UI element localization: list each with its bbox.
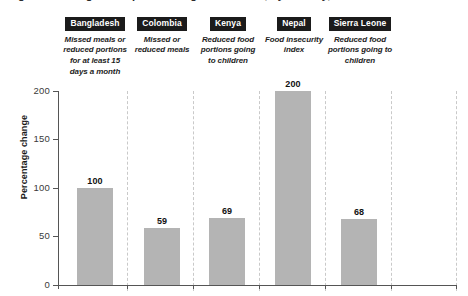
- bar-value-label: 69: [209, 206, 245, 216]
- category-separator: [259, 91, 260, 291]
- country-badge: Sierra Leone: [329, 17, 392, 31]
- country-badge: Bangladesh: [65, 17, 124, 31]
- category-separator: [456, 91, 457, 291]
- bar-value-label: 100: [77, 176, 113, 186]
- country-badge: Kenya: [210, 17, 246, 31]
- y-axis-label: Percentage change: [19, 107, 29, 207]
- y-tick-label: 50: [24, 230, 50, 241]
- column-header-sierra-leone: Sierra Leone Reduced food portions going…: [326, 12, 394, 67]
- column-subtitle: Missed meals or reduced portions for at …: [62, 35, 128, 78]
- x-tick-mark: [127, 285, 128, 289]
- column-header-bangladesh: Bangladesh Missed meals or reduced porti…: [62, 12, 128, 78]
- bar-kenya: [209, 218, 245, 285]
- bar-colombia: [144, 228, 180, 285]
- y-tick-mark: [53, 91, 58, 92]
- category-separator: [193, 91, 194, 291]
- bar-sierra-leone: [341, 219, 377, 285]
- y-tick-mark: [53, 188, 58, 189]
- x-tick-mark: [391, 285, 392, 289]
- x-tick-mark: [325, 285, 326, 289]
- bar-value-label: 200: [275, 79, 311, 89]
- x-tick-mark: [193, 285, 194, 289]
- x-tick-mark: [456, 285, 457, 289]
- category-separator: [127, 91, 128, 291]
- bar-nepal: [275, 91, 311, 285]
- column-subtitle: Food insecurity index: [262, 35, 326, 57]
- column-subtitle: Missed or reduced meals: [130, 35, 194, 57]
- bar-value-label: 59: [144, 216, 180, 226]
- y-tick-label: 0: [24, 279, 50, 290]
- bar-value-label: 68: [341, 207, 377, 217]
- column-header-nepal: Nepal Food insecurity index: [262, 12, 326, 56]
- y-tick-mark: [53, 139, 58, 140]
- column-header-kenya: Kenya Reduced food portions going to chi…: [196, 12, 260, 67]
- chart-headline: Figure 3. Changes in reported hunger ind…: [8, 0, 448, 3]
- column-header-colombia: Colombia Missed or reduced meals: [130, 12, 194, 56]
- category-separator: [325, 91, 326, 291]
- x-tick-mark: [259, 285, 260, 289]
- y-tick-mark: [53, 236, 58, 237]
- country-badge: Colombia: [137, 17, 187, 31]
- column-subtitle: Reduced food portions going to children: [196, 35, 260, 67]
- bar-bangladesh: [77, 188, 113, 285]
- y-axis-line: [58, 91, 59, 286]
- column-subtitle: Reduced food portions going to children: [326, 35, 394, 67]
- x-axis-baseline: [58, 285, 457, 286]
- x-tick-mark: [58, 285, 59, 289]
- country-badge: Nepal: [277, 17, 311, 31]
- category-separator: [391, 91, 392, 291]
- y-tick-label: 200: [24, 85, 50, 96]
